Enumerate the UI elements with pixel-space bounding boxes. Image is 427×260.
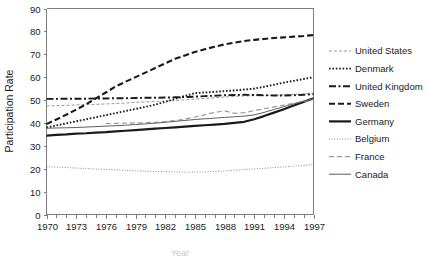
series-line-belgium (47, 165, 314, 173)
legend-label: United States (355, 45, 412, 56)
legend-item-denmark[interactable]: Denmark (329, 63, 394, 74)
x-tick-label: 1976 (96, 221, 117, 232)
x-tick-label: 1982 (155, 221, 176, 232)
x-tick-label: 1991 (244, 221, 265, 232)
legend-item-france[interactable]: France (329, 151, 385, 162)
y-tick-label: 10 (30, 187, 41, 198)
legend-label: France (355, 151, 385, 162)
chart-legend: United StatesDenmarkUnited KingdomSweden… (329, 45, 423, 179)
x-tick-label: 1988 (215, 221, 236, 232)
x-tick-label: 1973 (66, 221, 87, 232)
y-axis-title: Participation Rate (3, 69, 15, 152)
y-tick-label: 70 (30, 49, 41, 60)
x-tick-label: 1994 (274, 221, 295, 232)
chart-figure: 0102030405060708090 19701973197619791982… (0, 0, 427, 260)
x-tick-label: 1985 (185, 221, 206, 232)
x-tick-label: 1970 (37, 221, 58, 232)
legend-item-belgium[interactable]: Belgium (329, 133, 389, 144)
x-tick-label: 1997 (304, 221, 325, 232)
series-line-france (106, 100, 314, 124)
x-tick-label: 1979 (126, 221, 147, 232)
legend-item-united-states[interactable]: United States (329, 45, 412, 56)
series-line-germany (47, 98, 314, 135)
y-tick-label: 40 (30, 118, 41, 129)
legend-label: Sweden (355, 98, 389, 109)
y-tick-label: 90 (30, 4, 41, 15)
x-axis-ticks: 1970197319761979198219851988199119941997 (37, 215, 325, 232)
series-lines (47, 35, 314, 172)
y-tick-label: 30 (30, 141, 41, 152)
legend-label: Belgium (355, 133, 389, 144)
legend-item-united-kingdom[interactable]: United Kingdom (329, 81, 423, 92)
series-line-sweden (47, 35, 314, 124)
y-tick-label: 80 (30, 26, 41, 37)
legend-label: Canada (355, 169, 389, 180)
legend-label: United Kingdom (355, 81, 423, 92)
y-tick-label: 60 (30, 72, 41, 83)
y-axis-ticks: 0102030405060708090 (30, 4, 47, 221)
plot-frame (47, 9, 314, 215)
x-axis-title: Year (171, 248, 189, 258)
legend-item-germany[interactable]: Germany (329, 116, 394, 127)
legend-item-canada[interactable]: Canada (329, 169, 389, 180)
legend-label: Germany (355, 116, 394, 127)
legend-item-sweden[interactable]: Sweden (329, 98, 389, 109)
y-tick-label: 0 (35, 210, 40, 221)
y-tick-label: 20 (30, 164, 41, 175)
legend-label: Denmark (355, 63, 394, 74)
chart-canvas: 0102030405060708090 19701973197619791982… (0, 0, 427, 260)
y-tick-label: 50 (30, 95, 41, 106)
